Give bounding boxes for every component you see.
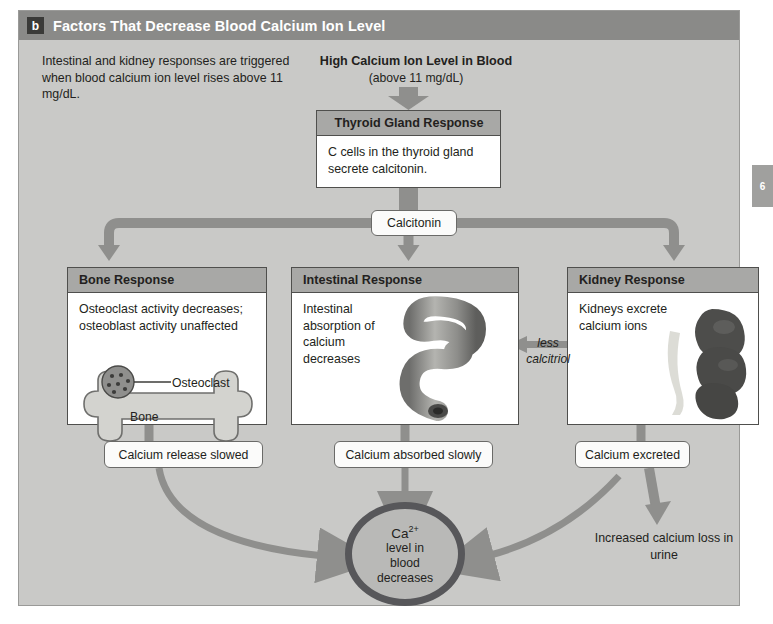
intestine-outcome-label: Calcium absorbed slowly (334, 441, 493, 468)
intestine-box-header: Intestinal Response (292, 268, 518, 293)
kidney-box-body: Kidneys excrete calcium ions (568, 293, 758, 449)
bone-box-text: Osteoclast activity decreases; osteoblas… (79, 302, 243, 333)
bone-response-box: Bone Response Osteoclast activity decrea… (67, 267, 267, 425)
thyroid-box-header: Thyroid Gland Response (317, 111, 500, 136)
intestine-illustration (380, 295, 510, 421)
page-number-tab: 6 (752, 165, 773, 207)
thyroid-response-box: Thyroid Gland Response C cells in the th… (316, 110, 501, 188)
kidney-response-box: Kidney Response Kidneys excrete calcium … (567, 267, 759, 425)
bone-outcome-label: Calcium release slowed (104, 441, 263, 468)
bone-illustration (76, 363, 260, 443)
figure-panel: b Factors That Decrease Blood Calcium Io… (18, 10, 740, 606)
osteoclast-label: Osteoclast (172, 375, 230, 392)
hormone-label-calcitonin: Calcitonin (371, 210, 457, 236)
arrowhead-to-intestine (398, 245, 420, 261)
arrowhead-to-bone (98, 245, 120, 261)
intestine-box-body: Intestinal absorption of calcium decreas… (292, 293, 518, 449)
kidney-outcome-label: Calcium excreted (575, 441, 690, 468)
figure-title: Factors That Decrease Blood Calcium Ion … (53, 18, 385, 34)
arrow-stimulus-to-thyroid (388, 87, 429, 110)
panel-letter-badge: b (27, 17, 44, 34)
bone-box-body: Osteoclast activity decreases; osteoblas… (68, 293, 266, 449)
intestinal-response-box: Intestinal Response Intestinal absorptio… (291, 267, 519, 425)
bone-box-header: Bone Response (68, 268, 266, 293)
arrowhead-to-kidney (663, 245, 685, 261)
stimulus-subtitle: (above 11 mg/dL) (301, 70, 531, 87)
bone-label: Bone (130, 409, 158, 426)
calcitriol-line-2: calcitriol (515, 351, 581, 367)
kidney-illustration (640, 303, 752, 421)
result-line-3: decreases (377, 571, 433, 586)
intestine-box-text: Intestinal absorption of calcium decreas… (303, 301, 388, 367)
figure-header-bar: b Factors That Decrease Blood Calcium Io… (19, 11, 739, 40)
kidney-box-header: Kidney Response (568, 268, 758, 293)
calcitriol-feedback-label: less calcitriol (515, 335, 581, 367)
arrow-bone-outcome-to-result (159, 468, 324, 556)
urine-loss-text: Increased calcium loss in urine (594, 530, 734, 563)
result-oval: Ca2+ level in blood decreases (345, 502, 465, 606)
result-ion: Ca2+ (391, 522, 419, 541)
result-line-1: level in (386, 541, 424, 556)
intro-text: Intestinal and kidney responses are trig… (42, 53, 307, 103)
thyroid-box-body: C cells in the thyroid gland secrete cal… (317, 136, 500, 212)
arrow-kidney-to-urine (645, 468, 671, 525)
result-line-2: blood (390, 556, 420, 571)
stimulus-title: High Calcium Ion Level in Blood (301, 53, 531, 70)
calcitriol-line-1: less (515, 335, 581, 351)
